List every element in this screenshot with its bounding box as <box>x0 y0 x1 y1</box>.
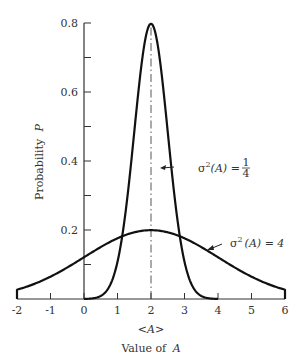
x-tick-label: 2 <box>148 304 155 317</box>
x-axis-label: Value of A <box>120 342 180 355</box>
x-tick-label: 5 <box>248 304 255 317</box>
arrow-head-icon <box>207 245 214 250</box>
annotation-wide-text: σ2(A) = 4 <box>230 235 284 250</box>
x-tick-label: 4 <box>215 304 222 317</box>
x-tick-label: 0 <box>81 304 88 317</box>
fraction-denominator: 4 <box>243 167 250 180</box>
x-tick-label: 3 <box>181 304 188 317</box>
x-tick-label: -2 <box>12 304 23 317</box>
arrow-head-icon <box>160 165 166 170</box>
x-tick-label: -1 <box>45 304 56 317</box>
y-tick-label: 0.4 <box>61 155 79 168</box>
annotation-wide: σ2(A) = 4 <box>207 235 284 250</box>
y-tick-label: 0.2 <box>61 224 79 237</box>
mean-label: <A> <box>138 323 164 336</box>
x-tick-label: 6 <box>282 304 289 317</box>
annotation-narrow-text: σ2(A) = <box>198 160 240 175</box>
annotation-narrow: σ2(A) = 1 4 <box>160 156 250 180</box>
y-tick-label: 0.8 <box>61 17 79 30</box>
x-tick-label: 1 <box>114 304 121 317</box>
y-tick-label: 0.6 <box>61 86 79 99</box>
y-axis-label: Probability P <box>33 123 46 200</box>
probability-chart: -2-101234560.20.40.60.8 Probability P <A… <box>0 0 305 364</box>
